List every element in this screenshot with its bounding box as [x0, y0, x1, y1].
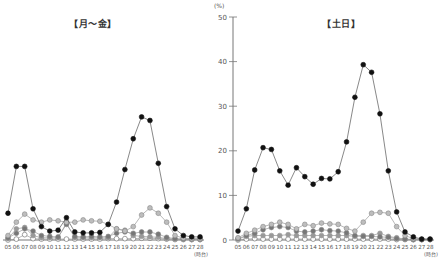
data-point — [89, 230, 94, 235]
x-tick-label: 11 — [55, 244, 63, 250]
data-point — [311, 223, 316, 228]
x-axis-unit: (時台) — [424, 251, 438, 258]
data-point — [277, 168, 282, 173]
data-point — [47, 234, 52, 239]
x-tick-label: 24 — [163, 244, 171, 250]
data-point — [97, 234, 102, 239]
data-point — [47, 229, 52, 234]
data-point — [148, 118, 153, 123]
data-point — [131, 224, 136, 229]
x-tick-label: 17 — [105, 244, 113, 250]
data-point — [14, 226, 19, 231]
y-tick-label: 20 — [218, 147, 227, 155]
x-tick-label: 17 — [335, 244, 343, 250]
left-panel-title: 【月～金】 — [69, 17, 117, 30]
data-point — [123, 167, 128, 172]
data-point — [286, 232, 291, 237]
data-point — [22, 212, 27, 217]
x-tick-label: 06 — [13, 244, 21, 250]
data-point — [286, 237, 291, 242]
data-point — [244, 231, 249, 236]
data-point — [327, 233, 332, 238]
y-tick-label: 10 — [218, 192, 227, 200]
data-point — [39, 224, 44, 229]
x-tick-label: 22 — [146, 244, 153, 250]
data-point — [123, 236, 128, 241]
data-point — [173, 226, 178, 231]
x-tick-label: 06 — [243, 244, 251, 250]
data-point — [97, 219, 102, 224]
data-point — [139, 230, 144, 235]
data-point — [277, 233, 282, 238]
data-point — [394, 210, 399, 215]
weekend-panel: 0506070809101112131415161718192021222324… — [234, 62, 438, 258]
data-point — [131, 136, 136, 141]
data-point — [106, 222, 111, 227]
data-point — [198, 234, 203, 239]
data-point — [148, 234, 153, 239]
data-point — [361, 62, 366, 67]
data-point — [39, 233, 44, 238]
data-point — [286, 222, 291, 227]
data-point — [394, 236, 399, 241]
x-tick-label: 08 — [259, 244, 267, 250]
x-tick-label: 18 — [343, 244, 351, 250]
data-point — [336, 229, 341, 234]
x-tick-label: 28 — [196, 244, 204, 250]
data-point — [22, 232, 27, 237]
x-tick-label: 10 — [276, 244, 284, 250]
data-point — [56, 234, 61, 239]
data-point — [148, 205, 153, 210]
y-tick-label: 50 — [218, 14, 227, 22]
y-axis: 01020304050 — [218, 14, 237, 245]
data-point — [131, 231, 136, 236]
data-point — [72, 220, 77, 225]
x-tick-label: 27 — [418, 244, 426, 250]
weekday-panel: 0506070809101112131415161718192021222324… — [3, 115, 208, 258]
data-point — [114, 200, 119, 205]
x-tick-label: 26 — [180, 244, 188, 250]
data-point — [114, 226, 119, 231]
data-point — [428, 237, 433, 242]
data-point — [361, 234, 366, 239]
data-point — [31, 233, 36, 238]
x-tick-label: 24 — [393, 244, 401, 250]
data-point — [14, 237, 19, 242]
data-point — [31, 229, 36, 234]
data-point — [336, 233, 341, 238]
x-tick-label: 09 — [38, 244, 46, 250]
data-point — [164, 204, 169, 209]
data-point — [81, 230, 86, 235]
x-tick-label: 14 — [310, 244, 318, 250]
data-point — [22, 164, 27, 169]
x-tick-label: 14 — [80, 244, 88, 250]
x-tick-label: 27 — [188, 244, 196, 250]
data-point — [394, 224, 399, 229]
data-point — [353, 229, 358, 234]
x-tick-label: 13 — [301, 244, 309, 250]
data-point — [378, 234, 383, 239]
x-tick-label: 19 — [121, 244, 129, 250]
data-point — [369, 70, 374, 75]
data-point — [294, 226, 299, 231]
data-point — [319, 176, 324, 181]
data-point — [31, 206, 36, 211]
data-point — [148, 230, 153, 235]
data-point — [244, 206, 249, 211]
data-point — [336, 222, 341, 227]
data-point — [361, 220, 366, 225]
x-tick-label: 09 — [268, 244, 276, 250]
data-point — [344, 139, 349, 144]
data-point — [403, 230, 408, 235]
data-point — [344, 226, 349, 231]
data-point — [319, 227, 324, 232]
x-tick-label: 10 — [46, 244, 54, 250]
x-tick-label: 26 — [410, 244, 418, 250]
data-point — [139, 234, 144, 239]
x-tick-label: 23 — [385, 244, 393, 250]
data-point — [22, 226, 27, 231]
data-point — [386, 168, 391, 173]
data-point — [277, 224, 282, 229]
data-point — [261, 233, 266, 238]
data-point — [173, 233, 178, 238]
